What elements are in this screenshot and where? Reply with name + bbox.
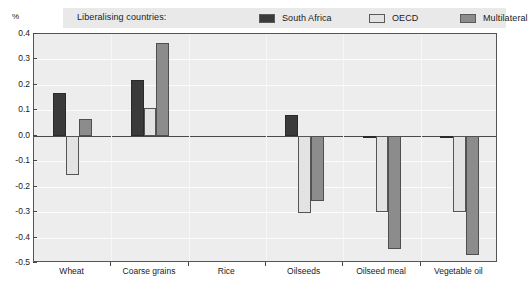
y-axis-tick-label: 0.3 <box>4 53 30 63</box>
x-axis-tick-label: Vegetable oil <box>434 266 483 276</box>
y-axis-tick-mark <box>33 186 37 187</box>
plot-area <box>33 33 497 262</box>
gridline <box>34 85 496 86</box>
y-axis-tick-mark <box>33 33 37 34</box>
y-axis-tick-mark <box>33 135 37 136</box>
legend-caption: Liberalising countries: <box>77 12 166 22</box>
category-separator <box>421 34 422 261</box>
y-axis-tick-label: 0.1 <box>4 104 30 114</box>
legend-label-oecd: OECD <box>392 13 418 23</box>
x-axis: WheatCoarse grainsRiceOilseedsOilseed me… <box>33 266 497 282</box>
x-axis-tick-mark <box>342 262 343 266</box>
bar-vegetable-oil-south-africa <box>440 136 453 139</box>
bar-vegetable-oil-oecd <box>453 136 466 212</box>
legend-item-south-africa: South Africa <box>259 12 332 24</box>
legend-item-multilateral: Multilateral <box>460 12 528 24</box>
y-axis-tick-mark <box>33 211 37 212</box>
bar-wheat-multilateral <box>79 119 92 136</box>
category-separator <box>189 34 190 261</box>
x-axis-tick-mark <box>420 262 421 266</box>
legend-label-multilateral: Multilateral <box>483 13 528 23</box>
y-axis-tick-mark <box>33 109 37 110</box>
chart-legend: Liberalising countries: South Africa OEC… <box>63 8 506 28</box>
bar-oilseeds-oecd <box>298 136 311 214</box>
gridline <box>34 187 496 188</box>
y-axis-tick-label: -0.5 <box>4 257 30 267</box>
category-separator <box>266 34 267 261</box>
y-axis-tick-label: 0.0 <box>4 130 30 140</box>
bar-coarse-grains-south-africa <box>131 80 144 136</box>
category-separator <box>111 34 112 261</box>
y-axis-tick-label: -0.3 <box>4 206 30 216</box>
y-axis-tick-mark <box>33 58 37 59</box>
gridline <box>34 59 496 60</box>
y-axis: 0.40.30.20.10.0-0.1-0.2-0.3-0.4-0.5 <box>0 33 30 262</box>
bar-vegetable-oil-multilateral <box>466 136 479 256</box>
bar-oilseed-meal-south-africa <box>363 136 376 139</box>
x-axis-tick-mark <box>110 262 111 266</box>
x-axis-tick-label: Coarse grains <box>123 266 176 276</box>
y-axis-tick-mark <box>33 237 37 238</box>
y-axis-tick-label: -0.4 <box>4 232 30 242</box>
y-axis-tick-label: 0.2 <box>4 79 30 89</box>
bar-wheat-oecd <box>66 136 79 175</box>
x-axis-tick-label: Oilseed meal <box>356 266 406 276</box>
y-axis-tick-mark <box>33 84 37 85</box>
bar-oilseed-meal-oecd <box>376 136 389 212</box>
x-axis-tick-label: Oilseeds <box>287 266 320 276</box>
x-axis-tick-mark <box>188 262 189 266</box>
bar-coarse-grains-oecd <box>144 108 157 136</box>
y-axis-tick-label: -0.2 <box>4 181 30 191</box>
x-axis-tick-label: Wheat <box>59 266 84 276</box>
legend-item-oecd: OECD <box>369 12 418 24</box>
gridline <box>34 238 496 239</box>
gridline <box>34 110 496 111</box>
bar-wheat-south-africa <box>53 93 66 136</box>
y-axis-tick-mark <box>33 160 37 161</box>
bar-oilseeds-south-africa <box>285 115 298 135</box>
y-axis-tick-label: 0.4 <box>4 28 30 38</box>
gridline <box>34 212 496 213</box>
zero-baseline <box>34 136 496 137</box>
x-axis-tick-label: Rice <box>218 266 235 276</box>
bar-oilseeds-multilateral <box>311 136 324 201</box>
gridline <box>34 161 496 162</box>
category-separator <box>343 34 344 261</box>
legend-swatch-south-africa <box>259 14 275 23</box>
bar-coarse-grains-multilateral <box>156 43 169 136</box>
x-axis-tick-mark <box>265 262 266 266</box>
y-axis-tick-label: -0.1 <box>4 155 30 165</box>
bar-oilseed-meal-multilateral <box>388 136 401 249</box>
legend-label-south-africa: South Africa <box>282 13 332 23</box>
y-axis-tick-mark <box>33 262 37 263</box>
legend-swatch-multilateral <box>460 14 476 23</box>
y-axis-unit-label: % <box>12 12 19 21</box>
legend-swatch-oecd <box>369 14 385 23</box>
